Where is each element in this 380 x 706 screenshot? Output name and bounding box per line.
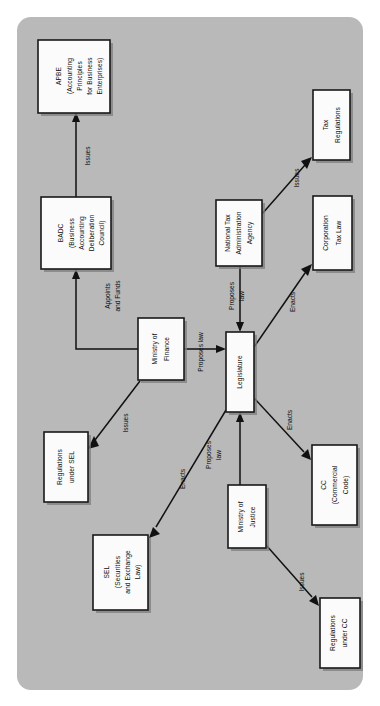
node-label: Council) [98,221,106,246]
edge-label-issues-sel: Issues [122,413,129,433]
edge-label-proposes-moj: Proposes [205,440,213,469]
node-label: APBE [55,67,62,85]
arrowhead-icon [236,322,244,332]
node-label: Ministry of [151,333,159,364]
edge-mof-to-badc: Appoints and Funds [72,269,138,349]
edge-mof-to-legislature: Proposes law [184,332,226,372]
edge-ntaa-to-legislature: Proposes law [228,266,245,332]
node-regulations-under-sel[interactable]: Regulations under SEL [44,432,91,505]
edge-moj-to-legislature: Proposes law [205,412,244,485]
edge-label-appoints: Appoints [104,282,112,308]
edge-mof-to-regulations-under-sel: Issues [88,381,140,449]
node-label: (Commercial [331,465,339,504]
node-label: Regulations [334,106,342,143]
node-label: (Business [68,217,76,247]
edge-legislature-to-sel: Enacts [149,410,226,538]
node-label: under SEL [68,451,75,483]
edge-line [156,410,226,527]
node-label: Ministry of [237,501,245,532]
node-box [228,485,266,548]
node-label: (Securities [114,555,122,588]
arrowhead-icon [309,595,319,606]
edge-line [254,398,304,452]
edge-label-enacts-sel: Enacts [179,468,186,489]
edge-label-enacts-ctl: Enacts [289,291,296,312]
node-label: Regulations [56,448,64,485]
node-apbe[interactable]: APBE (Accounting Principles for Business… [38,40,113,116]
node-cc[interactable]: CC (Commercial Code) [312,445,360,528]
node-tax-regulations[interactable]: Tax Regulations [313,90,353,163]
node-label: Accounting [78,216,86,250]
node-label: SEL [103,565,110,578]
node-legislature[interactable]: Legislature [226,332,257,415]
node-label: Deliberation [88,215,95,252]
node-label: BADC [57,224,64,243]
node-label: National Tax [224,214,231,252]
node-corporation-tax-law[interactable]: Corporation Tax Law [313,196,355,273]
edge-layer: Issues Appoints and Funds Proposes law I… [72,112,319,606]
node-label: Law) [134,565,142,580]
edge-label-proposes-moj-2: law [215,450,222,460]
node-label: Tax Law [335,220,342,245]
edge-legislature-to-cc: Enacts [254,398,311,460]
node-label: Corporation [322,215,330,251]
arrowhead-icon [216,345,226,353]
node-label: (Accounting [66,58,74,94]
edge-line [254,273,305,347]
arrowhead-icon [149,527,160,538]
node-label: Finance [163,337,170,361]
node-ministry-of-justice[interactable]: Ministry of Justice [228,485,269,551]
node-label: and Exchange [124,550,132,594]
edge-moj-to-regulations-under-cc: Issues [266,545,319,606]
node-label: Tax [322,119,329,130]
node-box [313,196,352,270]
edge-badc-to-apbe: Issues [72,112,91,197]
diagram-page: Issues Appoints and Funds Proposes law I… [0,0,380,706]
node-box [313,90,350,160]
node-national-tax-administration-agency[interactable]: National Tax Administration Agency [216,200,265,269]
node-label: Agency [246,221,254,244]
flow-diagram: Issues Appoints and Funds Proposes law I… [0,0,380,706]
node-regulations-under-cc[interactable]: Regulations under CC [320,598,363,671]
edge-label-issues-cc: Issues [298,572,305,592]
node-label: under CC [341,618,348,647]
node-label: Justice [249,506,256,527]
node-sel[interactable]: SEL (Securities and Exchange Law) [93,535,151,613]
node-label: for Business [86,57,93,95]
edge-label-enacts-cc: Enacts [286,409,293,430]
node-box [44,432,88,502]
arrowhead-icon [301,264,312,276]
node-label: Enterprises) [96,58,104,95]
edge-label-issues-tax: Issues [293,168,300,188]
edge-ntaa-to-tax-regulations: Issues [262,157,312,214]
node-label: CC [320,480,327,490]
edge-legislature-to-corporation-tax-law: Enacts [254,264,312,347]
node-box [138,318,184,380]
edge-label-proposes-ntaa-2: law [238,291,245,301]
edge-label-issues: Issues [84,146,91,166]
edge-line [266,545,312,597]
edge-label-proposes-law: Proposes law [197,332,205,372]
edge-label-appoints-2: and Funds [114,280,121,312]
node-label: Legislature [236,355,244,389]
node-badc[interactable]: BADC (Business Accounting Deliberation C… [41,197,114,272]
node-label: Administration [235,211,242,254]
node-ministry-of-finance[interactable]: Ministry of Finance [138,318,187,383]
edge-line [95,381,140,440]
node-label: Code) [342,476,350,494]
node-label: Regulations [329,614,337,651]
node-label: Principles [76,61,84,91]
edge-label-proposes-ntaa: Proposes [228,281,236,310]
